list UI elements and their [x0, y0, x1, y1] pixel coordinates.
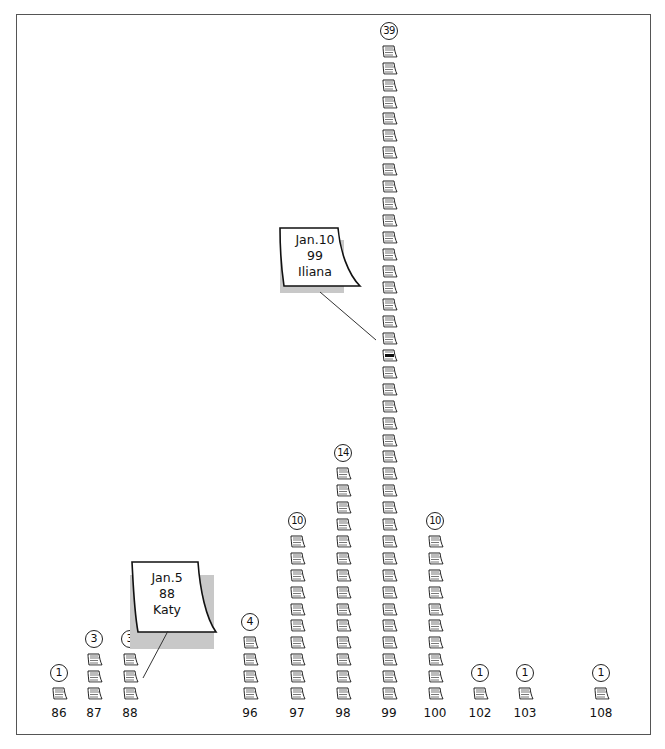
count-badge: 10 [288, 512, 306, 530]
note-icon [242, 652, 259, 666]
note-icon [289, 652, 306, 666]
category-label: 97 [277, 706, 317, 720]
note-icon [381, 382, 398, 396]
note-icon [381, 585, 398, 599]
category-label: 102 [460, 706, 500, 720]
note-icon [335, 568, 352, 582]
note-icon [335, 669, 352, 683]
note-icon [335, 466, 352, 480]
note-date: Jan.10 [284, 232, 346, 248]
note-icon [289, 534, 306, 548]
note-icon [335, 534, 352, 548]
note-icon [381, 44, 398, 58]
note-icon [381, 399, 398, 413]
category-label: 108 [581, 706, 621, 720]
note-icon [593, 686, 610, 700]
note-icon [427, 602, 444, 616]
note-icon [335, 500, 352, 514]
note-icon [381, 247, 398, 261]
note-icon [381, 264, 398, 278]
note-icon [381, 348, 398, 362]
note-icon [381, 314, 398, 328]
note-icon [335, 602, 352, 616]
note-icon [381, 145, 398, 159]
count-badge: 1 [471, 664, 489, 682]
note-icon [51, 686, 68, 700]
note-icon [289, 602, 306, 616]
note-icon [381, 365, 398, 379]
note-icon [289, 585, 306, 599]
note-icon [381, 78, 398, 92]
count-badge: 39 [380, 22, 398, 40]
note-icon [427, 585, 444, 599]
note-icon [381, 568, 398, 582]
note-icon [427, 618, 444, 632]
note-icon [242, 686, 259, 700]
note-score: 88 [132, 586, 202, 602]
note-icon [335, 585, 352, 599]
note-icon [381, 635, 398, 649]
note-icon [427, 635, 444, 649]
note-date: Jan.5 [132, 570, 202, 586]
note-icon [381, 433, 398, 447]
note-icon [381, 331, 398, 345]
leader-line [318, 290, 380, 342]
count-badge: 1 [516, 664, 534, 682]
note-icon [381, 551, 398, 565]
note-icon [289, 551, 306, 565]
note-icon [381, 297, 398, 311]
note-icon [122, 686, 139, 700]
category-label: 103 [505, 706, 545, 720]
note-icon [517, 686, 534, 700]
note-icon [335, 635, 352, 649]
note-icon [381, 602, 398, 616]
note-icon [427, 568, 444, 582]
count-badge: 1 [50, 664, 68, 682]
note-icon [289, 618, 306, 632]
note-icon [381, 111, 398, 125]
note-icon [289, 568, 306, 582]
count-badge: 1 [592, 664, 610, 682]
note-icon [86, 686, 103, 700]
note-icon [289, 686, 306, 700]
note-icon [242, 669, 259, 683]
note-icon [289, 669, 306, 683]
note-icon [335, 686, 352, 700]
note-icon [335, 483, 352, 497]
note-icon [335, 517, 352, 531]
note-icon [86, 669, 103, 683]
note-icon [381, 500, 398, 514]
note-icon [381, 162, 398, 176]
note-icon [427, 669, 444, 683]
category-label: 87 [74, 706, 114, 720]
note-icon [381, 686, 398, 700]
note-icon [381, 517, 398, 531]
note-icon [381, 61, 398, 75]
note-icon [427, 652, 444, 666]
note-icon [381, 230, 398, 244]
leader-line [140, 630, 180, 680]
note-icon [381, 449, 398, 463]
chart-frame [16, 14, 651, 735]
note-icon [381, 196, 398, 210]
note-icon [381, 213, 398, 227]
note-icon [381, 416, 398, 430]
note-icon [335, 652, 352, 666]
note-icon [381, 128, 398, 142]
category-label: 100 [415, 706, 455, 720]
note-icon [122, 669, 139, 683]
note-icon [335, 618, 352, 632]
note-icon [427, 534, 444, 548]
note-icon [86, 652, 103, 666]
note-icon [427, 686, 444, 700]
note-score: 99 [284, 248, 346, 264]
note-icon [427, 551, 444, 565]
note-icon [472, 686, 489, 700]
note-icon [381, 466, 398, 480]
category-label: 99 [369, 706, 409, 720]
note-icon [242, 635, 259, 649]
note-name: Iliana [284, 264, 346, 280]
category-label: 98 [323, 706, 363, 720]
note-icon [289, 635, 306, 649]
note-icon [335, 551, 352, 565]
